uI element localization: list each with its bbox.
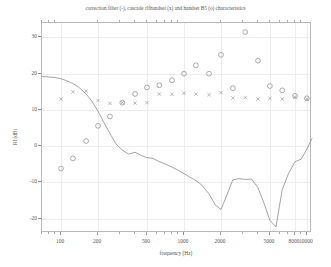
x-axis-minor-tick: [279, 232, 280, 234]
marker-circle-handset-b5: [305, 96, 310, 101]
x-axis-minor-tick: [146, 232, 147, 234]
x-axis-minor-tick: [294, 232, 295, 234]
x-axis-minor-tick: [97, 232, 98, 234]
x-axis-minor-tick-top: [48, 20, 49, 22]
marker-circle-handset-b5: [71, 156, 76, 161]
x-axis-minor-tick-top: [156, 20, 157, 22]
x-axis-minor-tick-top: [279, 20, 280, 22]
y-axis-tick: [38, 145, 41, 146]
x-axis-minor-tick: [41, 232, 42, 234]
marker-cross-cascade: [219, 91, 222, 94]
x-axis-minor-tick-top: [119, 20, 120, 22]
y-axis-tick-label: 0: [11, 142, 37, 148]
x-axis-minor-tick: [300, 232, 301, 234]
x-axis-minor-tick-top: [134, 20, 135, 22]
marker-cross-cascade: [96, 99, 99, 102]
marker-circle-handset-b5: [170, 78, 175, 83]
x-axis-minor-tick: [164, 232, 165, 234]
x-axis-minor-tick-top: [257, 20, 258, 22]
y-axis-tick-label: -10: [11, 178, 37, 184]
marker-circle-handset-b5: [145, 85, 150, 90]
data-series-layer: [42, 23, 312, 233]
x-axis-tick-label: 10000: [292, 238, 320, 244]
x-axis-minor-tick-top: [242, 20, 243, 22]
x-axis-minor-tick-top: [177, 20, 178, 22]
x-axis-tick-label: 500: [132, 238, 160, 244]
marker-cross-cascade: [231, 96, 234, 99]
x-axis-minor-tick: [134, 232, 135, 234]
marker-circle-handset-b5: [84, 139, 89, 144]
x-axis-tick: [183, 232, 184, 235]
x-axis-title: frequency (Hz): [41, 250, 311, 256]
x-axis-minor-tick: [156, 232, 157, 234]
x-axis-minor-tick-top: [54, 20, 55, 22]
chart-title: correction filter (-), cascade rlfhandse…: [0, 5, 331, 12]
marker-cross-cascade: [84, 89, 87, 92]
x-axis-tick-label: 100: [46, 238, 74, 244]
marker-cross-cascade: [108, 102, 111, 105]
marker-cross-cascade: [268, 97, 271, 100]
marker-cross-cascade: [133, 101, 136, 104]
marker-cross-cascade: [256, 97, 259, 100]
marker-cross-cascade: [170, 93, 173, 96]
x-axis-minor-tick-top: [287, 20, 288, 22]
marker-circle-handset-b5: [182, 71, 187, 76]
x-axis-tick: [306, 232, 307, 235]
y-axis-tick: [38, 181, 41, 182]
marker-cross-cascade: [281, 97, 284, 100]
x-axis-tick: [60, 232, 61, 235]
marker-circle-handset-b5: [256, 58, 261, 63]
marker-cross-cascade: [59, 97, 62, 100]
marker-circle-handset-b5: [207, 71, 212, 76]
y-axis-tick-label: 10: [11, 106, 37, 112]
plot-area: [41, 22, 311, 232]
marker-cross-cascade: [182, 92, 185, 95]
x-axis-minor-tick-top: [171, 20, 172, 22]
x-axis-minor-tick-top: [41, 20, 42, 22]
series-line-correction-filter: [42, 77, 312, 227]
x-axis-tick-label: 200: [83, 238, 111, 244]
marker-circle-handset-b5: [231, 86, 236, 91]
marker-cross-cascade: [207, 93, 210, 96]
marker-circle-handset-b5: [268, 84, 273, 89]
x-axis-minor-tick-top: [220, 20, 221, 22]
marker-circle-handset-b5: [96, 123, 101, 128]
marker-circle-handset-b5: [59, 166, 64, 171]
x-axis-tick-label: 2000: [206, 238, 234, 244]
marker-circle-handset-b5: [280, 88, 285, 93]
x-axis-minor-tick: [119, 232, 120, 234]
x-axis-minor-tick: [269, 232, 270, 234]
x-axis-minor-tick: [287, 232, 288, 234]
x-axis-minor-tick-top: [146, 20, 147, 22]
x-axis-minor-tick: [48, 232, 49, 234]
marker-cross-cascade: [71, 90, 74, 93]
x-axis-minor-tick: [242, 232, 243, 234]
x-axis-minor-tick-top: [269, 20, 270, 22]
x-axis-minor-tick-top: [97, 20, 98, 22]
marker-cross-cascade: [244, 96, 247, 99]
marker-cross-cascade: [145, 101, 148, 104]
x-axis-minor-tick-top: [294, 20, 295, 22]
marker-cross-cascade: [194, 92, 197, 95]
y-axis-tick: [38, 36, 41, 37]
figure-canvas: correction filter (-), cascade rlfhandse…: [0, 0, 331, 267]
x-axis-minor-tick-top: [164, 20, 165, 22]
marker-circle-handset-b5: [193, 63, 198, 68]
marker-circle-handset-b5: [219, 52, 224, 57]
marker-cross-cascade: [158, 92, 161, 95]
marker-circle-handset-b5: [243, 30, 248, 35]
x-axis-minor-tick: [54, 232, 55, 234]
x-axis-tick-label: 1000: [169, 238, 197, 244]
x-axis-minor-tick: [177, 232, 178, 234]
y-axis-tick: [38, 109, 41, 110]
x-axis-tick-label: 5000: [255, 238, 283, 244]
marker-cross-cascade: [121, 101, 124, 104]
x-axis-minor-tick: [257, 232, 258, 234]
y-axis-tick: [38, 218, 41, 219]
marker-circle-handset-b5: [157, 83, 162, 88]
x-axis-minor-tick: [220, 232, 221, 234]
y-axis-tick-label: 30: [11, 33, 37, 39]
y-axis-tick: [38, 73, 41, 74]
marker-circle-handset-b5: [133, 92, 138, 97]
marker-circle-handset-b5: [108, 114, 113, 119]
